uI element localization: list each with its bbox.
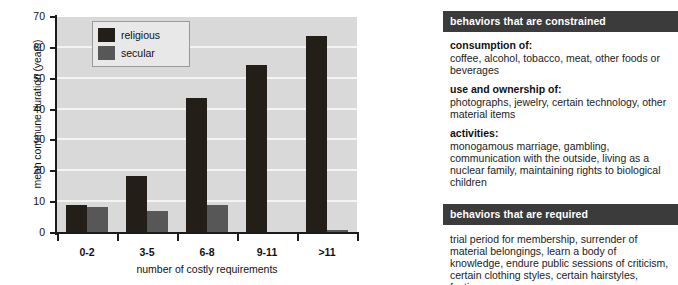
y-axis-tick	[50, 232, 56, 234]
bar-religious->11	[306, 36, 327, 233]
required-text: trial period for membership, surrender o…	[450, 233, 671, 285]
group-title-consumption: consumption of:	[450, 39, 671, 51]
x-axis-tick	[297, 234, 299, 241]
panel-body-constrained: consumption of: coffee, alcohol, tobacco…	[443, 32, 678, 195]
x-axis-title: number of costly requirements	[57, 263, 357, 275]
chart-legend: religious secular	[92, 21, 190, 67]
x-axis-tick	[117, 234, 119, 241]
y-axis-tick	[50, 109, 56, 111]
y-axis-tick-label: 50	[17, 72, 45, 84]
y-axis-tick-label: 0	[17, 226, 45, 238]
bar-religious-6-8	[186, 98, 207, 233]
x-axis-tick-label: 3-5	[117, 246, 177, 258]
bar-religious-3-5	[126, 176, 147, 233]
bar-religious-9-11	[246, 65, 267, 233]
x-axis-tick	[57, 234, 59, 241]
panel-header-required: behaviors that are required	[443, 204, 678, 225]
y-axis-tick-label: 10	[17, 195, 45, 207]
group-text-consumption: coffee, alcohol, tobacco, meat, other fo…	[450, 52, 671, 76]
y-axis-tick-label: 40	[17, 103, 45, 115]
y-axis-tick-label: 60	[17, 41, 45, 53]
legend-label: secular	[121, 47, 155, 59]
y-axis-tick	[50, 16, 56, 18]
group-title-activities: activities:	[450, 127, 671, 139]
bar-secular-0-2	[87, 207, 108, 233]
panel-header-constrained: behaviors that are constrained	[443, 11, 678, 32]
panel-divider	[443, 195, 678, 204]
legend-item-secular: secular	[98, 44, 184, 62]
legend-label: religious	[121, 29, 160, 41]
y-axis-tick-label: 70	[17, 10, 45, 22]
group-text-activities: monogamous marriage, gambling, communica…	[450, 140, 671, 188]
legend-swatch-icon	[98, 46, 115, 60]
x-axis-tick	[177, 234, 179, 241]
group-title-use-ownership: use and ownership of:	[450, 83, 671, 95]
side-panel: behaviors that are constrained consumpti…	[443, 11, 678, 273]
y-axis-tick	[50, 201, 56, 203]
panel-body-required: trial period for membership, surrender o…	[443, 225, 678, 285]
group-text-use-ownership: photographs, jewelry, certain technology…	[450, 96, 671, 120]
y-axis-tick	[50, 78, 56, 80]
x-axis-tick-label: >11	[297, 246, 357, 258]
bar-secular-3-5	[147, 211, 168, 233]
bar-secular-6-8	[207, 205, 228, 233]
bar-religious-0-2	[66, 205, 87, 233]
x-axis-tick-label: 6-8	[177, 246, 237, 258]
x-axis-tick	[237, 234, 239, 241]
x-axis-tick	[357, 234, 359, 241]
bar-chart: mean commune duration (years) 0102030405…	[0, 0, 432, 285]
legend-item-religious: religious	[98, 26, 184, 44]
y-axis-tick-label: 30	[17, 133, 45, 145]
x-axis-tick-label: 9-11	[237, 246, 297, 258]
y-axis-tick-label: 20	[17, 164, 45, 176]
legend-swatch-icon	[98, 28, 115, 42]
y-axis-tick	[50, 139, 56, 141]
x-axis-line	[55, 232, 359, 234]
y-axis-tick	[50, 170, 56, 172]
x-axis-tick-label: 0-2	[57, 246, 117, 258]
figure-root: mean commune duration (years) 0102030405…	[0, 0, 678, 285]
y-axis-tick	[50, 47, 56, 49]
